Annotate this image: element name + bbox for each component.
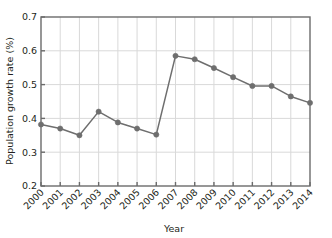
data-point-marker bbox=[269, 83, 274, 88]
data-point-marker bbox=[115, 120, 120, 125]
data-point-marker bbox=[231, 75, 236, 80]
data-point-marker bbox=[154, 132, 159, 137]
x-axis-title: Year bbox=[163, 223, 184, 234]
chart-canvas: 0.20.30.40.50.60.7 200020012002200320042… bbox=[0, 0, 332, 238]
y-tick-label: 0.7 bbox=[22, 11, 37, 22]
data-point-marker bbox=[77, 133, 82, 138]
population-growth-rate-line-chart: 0.20.30.40.50.60.7 200020012002200320042… bbox=[0, 0, 332, 238]
data-point-marker bbox=[96, 109, 101, 114]
data-point-marker bbox=[307, 100, 312, 105]
data-point-marker bbox=[134, 126, 139, 131]
y-tick-label: 0.3 bbox=[22, 147, 37, 158]
data-point-marker bbox=[173, 53, 178, 58]
y-tick-label: 0.5 bbox=[22, 79, 37, 90]
data-point-marker bbox=[192, 57, 197, 62]
data-point-marker bbox=[288, 94, 293, 99]
data-point-marker bbox=[211, 65, 216, 70]
y-tick-label: 0.4 bbox=[22, 113, 37, 124]
data-point-marker bbox=[38, 122, 43, 127]
y-tick-label: 0.6 bbox=[22, 45, 37, 56]
data-point-marker bbox=[250, 83, 255, 88]
data-point-marker bbox=[58, 126, 63, 131]
y-axis-title: Population growth rate (%) bbox=[4, 37, 15, 165]
